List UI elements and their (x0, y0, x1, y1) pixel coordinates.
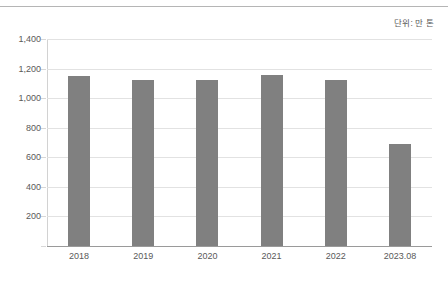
y-tick-label: 600 (26, 152, 41, 162)
bar (132, 80, 154, 246)
gridline (47, 98, 432, 99)
gridline (47, 187, 432, 188)
y-tick-mark (41, 69, 46, 70)
x-tick-label: 2019 (133, 251, 153, 261)
x-tick-label: 2020 (197, 251, 217, 261)
y-tick-label: 800 (26, 123, 41, 133)
y-tick-mark (41, 246, 46, 247)
y-tick-label: 1,400 (18, 34, 41, 44)
axis-baseline (47, 246, 432, 247)
y-tick-mark (41, 98, 46, 99)
y-tick-mark (41, 216, 46, 217)
gridline (47, 39, 432, 40)
y-tick-label: 1,200 (18, 64, 41, 74)
bar (196, 80, 218, 246)
x-tick-label: 2018 (69, 251, 89, 261)
y-axis-labels: 2004006008001,0001,2001,400 (0, 39, 41, 246)
bar (261, 75, 283, 246)
top-divider-rule (0, 6, 448, 7)
x-axis-labels: 201820192020202120222023.08 (47, 251, 432, 271)
gridline (47, 216, 432, 217)
bar (68, 76, 90, 246)
bar (389, 144, 411, 246)
y-tick-label: 200 (26, 211, 41, 221)
y-tick-mark (41, 128, 46, 129)
x-tick-label: 2023.08 (384, 251, 417, 261)
gridline (47, 157, 432, 158)
bar (325, 80, 347, 246)
y-tick-mark (41, 187, 46, 188)
gridline (47, 69, 432, 70)
y-tick-label: 400 (26, 182, 41, 192)
bar-chart-figure: 단위: 만 톤 2004006008001,0001,2001,400 2018… (0, 0, 448, 287)
y-tick-label: 1,000 (18, 93, 41, 103)
x-tick-label: 2021 (262, 251, 282, 261)
x-tick-label: 2022 (326, 251, 346, 261)
y-tick-mark (41, 39, 46, 40)
plot-area (47, 39, 432, 246)
unit-annotation: 단위: 만 톤 (394, 16, 434, 28)
y-tick-mark (41, 157, 46, 158)
gridline (47, 128, 432, 129)
